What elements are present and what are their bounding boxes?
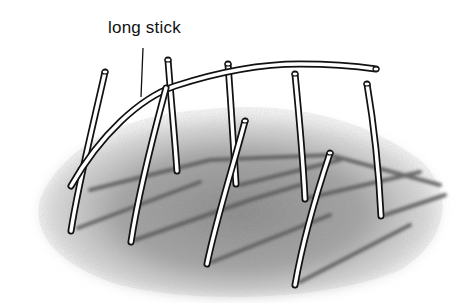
- long-stick-label: long stick: [108, 18, 181, 38]
- label-leader-line: [141, 48, 143, 97]
- stick-drawing: [0, 0, 468, 303]
- illustration: long stick: [0, 0, 468, 303]
